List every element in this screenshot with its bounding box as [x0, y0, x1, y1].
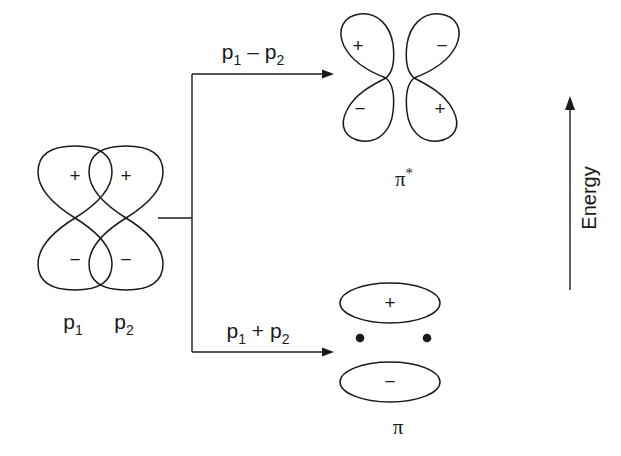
p-orbital-2-bottom-sign: − [120, 249, 131, 270]
pi-star-left-bottom-lobe [343, 78, 393, 141]
antibonding-label-base-a: p [222, 40, 234, 63]
bonding-label-sub-b: 2 [282, 331, 290, 347]
bonding-label-op: + [252, 319, 264, 342]
bonding-label-base-a: p [227, 319, 239, 342]
p-orbital-1-group: + − p1 [38, 146, 112, 338]
p-orbital-2-label: p2 [114, 310, 134, 338]
p-orbital-2-group: + − p2 [89, 146, 163, 338]
pi-star-left-bottom-sign: − [354, 98, 365, 119]
pi-star-superscript: * [406, 165, 414, 181]
pi-bonding-top-sign: + [384, 292, 395, 313]
pi-star-right-top-sign: − [436, 35, 447, 56]
mo-diagram-figure: + − p1 + − p2 p1 – p2 p1 + p2 + − − + [0, 0, 621, 456]
pi-bonding-electron-dot-left [356, 334, 365, 343]
bonding-label-sub-a: 1 [238, 331, 246, 347]
pi-star-symbol: π [395, 167, 406, 191]
p-orbital-1-bottom-sign: − [69, 249, 80, 270]
pi-star-orbital-group: + − − + π* [341, 14, 459, 191]
bracket-connector [158, 74, 192, 352]
energy-axis-label: Energy [578, 166, 600, 229]
bonding-label-base-b: p [270, 319, 282, 342]
p-orbital-1-label: p1 [63, 310, 83, 338]
pi-star-left-top-lobe [341, 14, 394, 78]
bonding-arrow-group: p1 + p2 [192, 319, 334, 357]
pi-star-orbital-label: π* [395, 165, 413, 191]
bonding-arrow-head [322, 348, 334, 357]
pi-bonding-orbital-group: + − π [340, 283, 440, 439]
energy-axis-arrow-head [565, 96, 575, 110]
antibonding-combination-label: p1 – p2 [222, 40, 285, 68]
antibonding-label-sub-a: 1 [234, 52, 242, 68]
pi-star-right-top-lobe [406, 14, 459, 78]
pi-bonding-bottom-sign: − [384, 371, 395, 392]
antibonding-label-sub-b: 2 [276, 52, 284, 68]
bonding-combination-label: p1 + p2 [227, 319, 290, 347]
p-orbital-1-top-sign: + [69, 165, 80, 186]
mo-diagram-canvas: + − p1 + − p2 p1 – p2 p1 + p2 + − − + [0, 0, 621, 456]
antibonding-label-base-b: p [265, 40, 277, 63]
pi-bonding-electron-dot-right [423, 334, 432, 343]
p-orbital-1-label-sub: 1 [75, 322, 83, 338]
pi-star-left-top-sign: + [352, 35, 363, 56]
p-orbital-2-label-sub: 2 [126, 322, 134, 338]
energy-axis-group: Energy [565, 96, 600, 290]
antibonding-label-op: – [247, 40, 259, 63]
pi-star-right-bottom-sign: + [434, 98, 445, 119]
p-orbital-1-label-base: p [63, 310, 75, 333]
pi-star-right-bottom-lobe [406, 78, 456, 141]
p-orbital-2-label-base: p [114, 310, 126, 333]
p-orbital-2-top-sign: + [120, 165, 131, 186]
pi-bonding-orbital-label: π [393, 415, 404, 439]
antibonding-arrow-group: p1 – p2 [192, 40, 334, 79]
antibonding-arrow-head [322, 70, 334, 79]
